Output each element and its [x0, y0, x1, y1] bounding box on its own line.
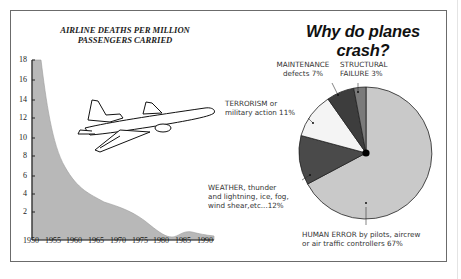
- label-terrorism-line1: TERRORISM or: [225, 99, 295, 108]
- y-tick-label: 4: [13, 189, 27, 198]
- label-terrorism-line2: military action 11%: [225, 108, 295, 117]
- label-weather: WEATHER, thunder and lightning, ice, fog…: [208, 183, 289, 210]
- label-human-error-line2: or air traffic controllers 67%: [302, 239, 420, 248]
- label-maintenance-line1: MAINTENANCE: [268, 60, 338, 69]
- label-human-error: HUMAN ERROR by pilots, aircrew or air tr…: [302, 230, 420, 248]
- x-tick-label: 1955: [42, 236, 64, 245]
- pie-chart-title: Why do planes crash?: [278, 22, 448, 60]
- x-tick-label: 1985: [172, 236, 194, 245]
- label-maintenance-line2: defects 7%: [268, 69, 338, 78]
- x-tick-label: 1970: [107, 236, 129, 245]
- label-human-error-line1: HUMAN ERROR by pilots, aircrew: [302, 230, 420, 239]
- y-tick-label: 18: [13, 55, 27, 64]
- y-tick-label: 14: [13, 95, 27, 104]
- label-weather-line3: wind shear,etc...12%: [208, 201, 289, 210]
- y-tick-label: 12: [13, 113, 27, 122]
- y-tick-label: 2: [13, 207, 27, 216]
- x-tick-label: 1980: [150, 236, 172, 245]
- x-tick-label: 1965: [85, 236, 107, 245]
- x-tick-label: 1960: [63, 236, 85, 245]
- x-tick-label: 1950: [20, 236, 42, 245]
- label-structural: STRUCTURAL FAILURE 3%: [340, 60, 388, 78]
- label-weather-line2: and lightning, ice, fog,: [208, 192, 289, 201]
- airplane-icon: [78, 100, 215, 152]
- x-tick-label: 1990: [194, 236, 216, 245]
- pie-chart: [299, 87, 432, 219]
- y-tick-label: 8: [13, 151, 27, 160]
- y-tick-label: 16: [13, 75, 27, 84]
- label-weather-line1: WEATHER, thunder: [208, 183, 289, 192]
- y-tick-label: 10: [13, 133, 27, 142]
- area-series: [32, 60, 214, 240]
- y-tick-label: 6: [13, 171, 27, 180]
- label-structural-line1: STRUCTURAL: [340, 60, 388, 69]
- label-maintenance: MAINTENANCE defects 7%: [268, 60, 338, 78]
- label-structural-line2: FAILURE 3%: [340, 69, 388, 78]
- pie-center-dot: [362, 149, 369, 156]
- x-tick-label: 1975: [129, 236, 151, 245]
- label-terrorism: TERRORISM or military action 11%: [225, 99, 295, 117]
